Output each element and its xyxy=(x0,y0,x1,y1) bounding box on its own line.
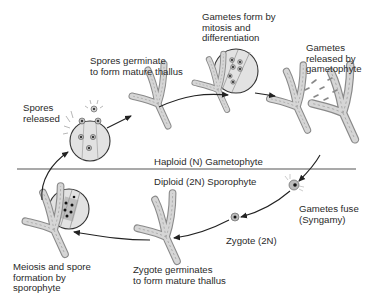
label-diploid-sporophyte: Diploid (2N) Sporophyte xyxy=(154,177,256,188)
arrow-zygote-to-thallus xyxy=(174,220,229,238)
label-line: Spores xyxy=(23,103,60,114)
thallus-gametophyte-3 xyxy=(270,65,308,130)
arrow-release-to-fusion xyxy=(299,155,320,181)
label-line: Gametes xyxy=(306,43,361,54)
label-meiosis: Meiosis and spore formation by sporophyt… xyxy=(13,262,91,294)
label-line: gametophyte xyxy=(306,64,361,75)
label-line: Gametes fuse xyxy=(299,204,359,215)
label-gametes-fuse: Gametes fuse (Syngamy) xyxy=(299,204,359,225)
thallus-sporophyte-mature xyxy=(25,186,65,254)
label-line: sporophyte xyxy=(13,283,91,294)
thallus-sporophyte-young xyxy=(137,193,177,261)
label-line: released xyxy=(23,114,60,125)
label-spores-released: Spores released xyxy=(23,103,60,124)
arrow-thallus-to-meiosis xyxy=(74,232,150,240)
spore-circle-illustration xyxy=(63,100,110,161)
arrow-fusion-to-zygote xyxy=(241,191,290,217)
label-line: differentiation xyxy=(202,33,276,44)
label-line: (Syngamy) xyxy=(299,215,359,226)
zygote-cell xyxy=(231,213,239,221)
label-line: Meiosis and spore xyxy=(13,262,91,273)
label-line: Gametes form by xyxy=(202,12,276,23)
label-zygote: Zygote (2N) xyxy=(226,236,277,247)
label-zygote-germinates: Zygote germinates to form mature thallus xyxy=(133,265,226,286)
label-line: to form mature thallus xyxy=(90,67,183,78)
arrow-gametes-to-release xyxy=(255,93,275,96)
label-line: Zygote germinates xyxy=(133,265,226,276)
label-gametes-released: Gametes released by gametophyte xyxy=(306,43,361,75)
label-haploid-gametophyte: Haploid (N) Gametophyte xyxy=(154,157,263,168)
label-line: Spores germinate xyxy=(90,56,183,67)
label-line: to form mature thallus xyxy=(133,276,226,287)
arrow-spores-to-thallus xyxy=(107,116,131,128)
fusing-gametes-cell xyxy=(285,174,304,191)
label-spores-germinate: Spores germinate to form mature thallus xyxy=(90,56,183,77)
thallus-gametophyte-4 xyxy=(312,65,355,139)
label-gametes-form: Gametes form by mitosis and differentiat… xyxy=(202,12,276,44)
thallus-gametophyte-2 xyxy=(195,54,227,110)
